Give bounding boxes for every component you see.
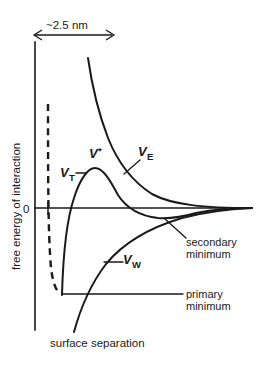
curve-label-v-t: V T [60, 165, 75, 183]
curve-label-v-star-subscript: * [98, 145, 102, 156]
curve-v-t [62, 168, 252, 295]
scale-bar: ~2.5 nm [34, 19, 114, 40]
curve-label-v-w: V W [123, 252, 141, 270]
curve-label-v-e: V E [138, 144, 153, 162]
y-axis-zero-label: 0 [23, 203, 29, 215]
annotation-secondary-minimum: secondary minimum [186, 236, 237, 260]
annotation-primary-minimum: primary minimum [186, 288, 231, 312]
annotation-primary-minimum-line1: primary [186, 288, 223, 300]
axes [35, 42, 252, 330]
annotation-secondary-minimum-line1: secondary [186, 236, 237, 248]
annotation-primary-minimum-line2: minimum [186, 300, 231, 312]
curve-v-w [74, 208, 252, 332]
curve-label-v-t-subscript: T [69, 172, 75, 183]
curve-label-v-e-subscript: E [147, 151, 153, 162]
curve-label-v-star: V * [89, 145, 102, 161]
leader-secondary-minimum [165, 219, 186, 238]
x-axis-label: surface separation [50, 337, 145, 349]
annotation-secondary-minimum-line2: minimum [186, 248, 231, 260]
scale-bar-label: ~2.5 nm [46, 19, 88, 31]
y-axis-label: free energy of interaction [10, 143, 22, 270]
leader-v-e [124, 160, 140, 174]
curve-born-repulsion-dashed [48, 104, 60, 293]
curve-label-v-w-subscript: W [132, 259, 141, 270]
dlvo-interaction-energy-figure: ~2.5 nm free energy of interaction 0 sur… [0, 0, 259, 366]
